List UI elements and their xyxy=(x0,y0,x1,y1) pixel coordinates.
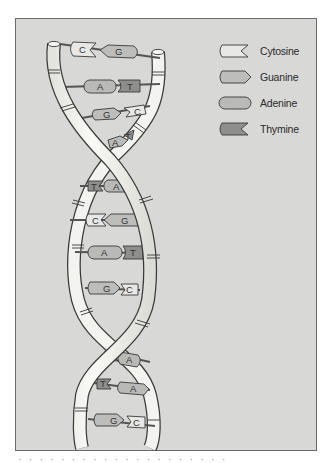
svg-text:T: T xyxy=(125,131,131,142)
legend-item-thymine: Thymine xyxy=(218,116,318,142)
svg-text:C: C xyxy=(133,417,140,428)
svg-text:G: G xyxy=(103,283,110,294)
legend-item-adenine: Adenine xyxy=(218,90,318,116)
guanine-shape-icon xyxy=(218,69,252,85)
svg-text:G: G xyxy=(121,215,128,226)
legend-label: Cytosine xyxy=(260,45,299,57)
legend-label: Guanine xyxy=(260,71,298,83)
svg-text:A: A xyxy=(130,383,137,394)
svg-text:T: T xyxy=(130,247,136,258)
cytosine-shape-icon xyxy=(218,43,252,59)
svg-text:G: G xyxy=(115,46,122,57)
svg-text:A: A xyxy=(112,137,119,148)
legend: Cytosine Guanine Adenine Thymine xyxy=(218,38,318,142)
legend-item-cytosine: Cytosine xyxy=(218,38,318,64)
strand-end-cap xyxy=(152,49,164,54)
svg-text:T: T xyxy=(100,378,106,389)
svg-text:C: C xyxy=(126,284,133,295)
svg-text:A: A xyxy=(101,247,108,258)
thymine-shape-icon xyxy=(218,121,252,137)
svg-text:G: G xyxy=(110,415,117,426)
legend-item-guanine: Guanine xyxy=(218,64,318,90)
svg-text:A: A xyxy=(126,354,133,365)
legend-label: Thymine xyxy=(260,123,299,135)
svg-text:G: G xyxy=(103,109,110,120)
legend-label: Adenine xyxy=(260,97,297,109)
svg-text:C: C xyxy=(134,106,141,117)
svg-text:T: T xyxy=(91,181,97,192)
caption-clipped: · · · · · · · · · · · · · · · · · · · · xyxy=(18,456,318,463)
adenine-shape-icon xyxy=(218,95,252,111)
svg-text:T: T xyxy=(127,81,133,92)
svg-text:C: C xyxy=(92,215,99,226)
base-label: C xyxy=(79,44,86,55)
svg-text:A: A xyxy=(97,81,104,92)
